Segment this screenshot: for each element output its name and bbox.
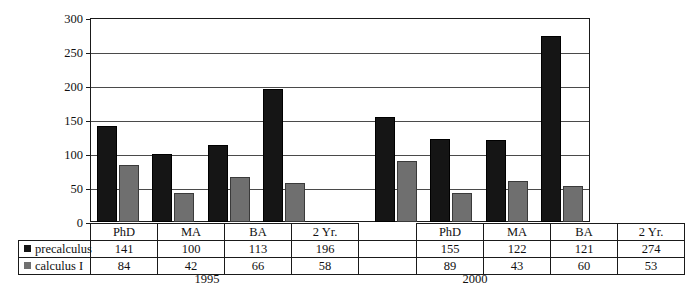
table-row: precalculus141100113196155122121274 bbox=[19, 241, 685, 258]
y-axis-label: 100 bbox=[64, 149, 83, 162]
table-cell-value: 100 bbox=[158, 241, 225, 258]
legend-label: calculus I bbox=[35, 259, 83, 273]
y-axis-tick-mark bbox=[86, 121, 91, 122]
table-row: calculus I8442665889436053 bbox=[19, 258, 685, 275]
y-axis-tick-mark bbox=[86, 19, 91, 20]
gridline bbox=[91, 87, 589, 88]
y-axis-label: 300 bbox=[64, 13, 83, 26]
y-axis-tick-mark bbox=[86, 155, 91, 156]
y-axis-label: 200 bbox=[64, 81, 83, 94]
plot-area: 300250200150100500 bbox=[90, 18, 590, 222]
y-axis-tick-mark bbox=[86, 53, 91, 54]
legend-item-precalculus: precalculus bbox=[19, 241, 91, 258]
gray-square-icon bbox=[24, 262, 31, 269]
table-cell-value: 58 bbox=[292, 258, 359, 275]
y-axis-label: 250 bbox=[64, 47, 83, 60]
table-cell-value: 141 bbox=[91, 241, 158, 258]
table-cell-value: 155 bbox=[417, 241, 484, 258]
y-axis-tick-mark bbox=[86, 87, 91, 88]
table-cell-value: 60 bbox=[551, 258, 618, 275]
y-axis-label: 50 bbox=[71, 183, 84, 196]
y-axis-tick-mark bbox=[86, 189, 91, 190]
group-caption-1995: 1995 bbox=[157, 272, 257, 287]
data-table: PhDMABA2 Yr.PhDMABA2 Yr. precalculus1411… bbox=[18, 223, 685, 275]
table-gap-cell bbox=[359, 258, 417, 275]
table-header-row: PhDMABA2 Yr.PhDMABA2 Yr. bbox=[19, 224, 685, 241]
table-cell-value: 84 bbox=[91, 258, 158, 275]
table-gap-cell bbox=[359, 241, 417, 258]
table-cell-value: 53 bbox=[618, 258, 685, 275]
table-cell-value: 121 bbox=[551, 241, 618, 258]
legend-item-calculus-i: calculus I bbox=[19, 258, 91, 275]
table-header-2yr-2000: 2 Yr. bbox=[618, 224, 685, 241]
table-cell-value: 274 bbox=[618, 241, 685, 258]
table-header-phd-2000: PhD bbox=[417, 224, 484, 241]
table-cell-value: 113 bbox=[225, 241, 292, 258]
table-cell-value: 196 bbox=[292, 241, 359, 258]
gridline bbox=[91, 155, 589, 156]
gridline bbox=[91, 189, 589, 190]
legend-label: precalculus bbox=[35, 242, 92, 256]
table-header-ma-2000: MA bbox=[484, 224, 551, 241]
table-cell-value: 122 bbox=[484, 241, 551, 258]
table-header-ma-1995: MA bbox=[158, 224, 225, 241]
table-gap-header bbox=[359, 224, 417, 241]
y-axis-label: 150 bbox=[64, 115, 83, 128]
table-header-ba-2000: BA bbox=[551, 224, 618, 241]
gridline bbox=[91, 121, 589, 122]
group-caption-2000: 2000 bbox=[425, 272, 525, 287]
table-header-2yr-1995: 2 Yr. bbox=[292, 224, 359, 241]
gridline bbox=[91, 53, 589, 54]
table-header-phd-1995: PhD bbox=[91, 224, 158, 241]
table-corner-cell bbox=[19, 224, 91, 241]
table-header-ba-1995: BA bbox=[225, 224, 292, 241]
black-square-icon bbox=[24, 245, 31, 252]
